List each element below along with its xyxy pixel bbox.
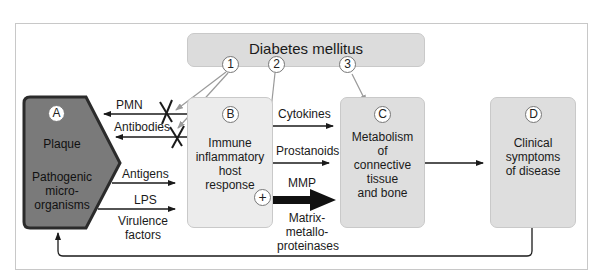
node-c-line: tissue (341, 172, 424, 186)
node-d-line: of disease (491, 164, 575, 178)
marker-2-icon: 2 (268, 56, 285, 73)
node-b-line: host (188, 164, 272, 178)
node-d-line: symptoms (491, 150, 575, 164)
node-a-line: organisms (24, 198, 100, 212)
mmp-line: Matrix- (277, 211, 337, 225)
node-c-line: connective (341, 158, 424, 172)
node-c-box: C Metabolism of connective tissue and bo… (340, 97, 425, 228)
plus-icon: + (254, 189, 271, 206)
node-a-marker-icon: A (48, 105, 65, 122)
cytokines-label: Cytokines (278, 107, 331, 121)
virulence-factors-label: Virulence factors (117, 214, 169, 242)
node-d-box: D Clinical symptoms of disease (490, 97, 576, 228)
virulence-line: factors (117, 228, 169, 242)
mmp-label: MMP (288, 176, 316, 190)
pmn-label: PMN (116, 98, 143, 112)
node-a-line: Pathogenic (24, 170, 100, 184)
node-c-line: Metabolism (341, 130, 424, 144)
node-a-title: Plaque (24, 137, 100, 151)
node-c-marker-icon: C (374, 106, 391, 123)
node-b-marker-icon: B (222, 106, 239, 123)
node-a-subtitle: Pathogenic micro- organisms (24, 170, 100, 212)
node-b-box: B Immune inflammatory host response + (187, 97, 273, 228)
node-a-line: micro- (24, 184, 100, 198)
marker-1-icon: 1 (222, 56, 239, 73)
node-b-line: inflammatory (188, 150, 272, 164)
node-c-line: and bone (341, 186, 424, 200)
node-d-line: Clinical (491, 136, 575, 150)
virulence-line: Virulence (117, 214, 169, 228)
mmp-line: proteinases (277, 239, 337, 253)
lps-label: LPS (134, 193, 157, 207)
node-b-line: Immune (188, 136, 272, 150)
node-d-marker-icon: D (525, 106, 542, 123)
marker-3-icon: 3 (339, 56, 356, 73)
node-c-line: of (341, 144, 424, 158)
mmp-full-label: Matrix- metallo- proteinases (277, 211, 337, 253)
node-b-text: Immune inflammatory host response (188, 136, 272, 192)
antibodies-label: Antibodies (114, 120, 170, 134)
mmp-line: metallo- (277, 225, 337, 239)
prostanoids-label: Prostanoids (276, 144, 339, 158)
node-d-text: Clinical symptoms of disease (491, 136, 575, 178)
mmp-thick-arrow (273, 189, 336, 211)
diabetes-mellitus-label: Diabetes mellitus (249, 40, 363, 57)
node-c-text: Metabolism of connective tissue and bone (341, 130, 424, 200)
antigens-label: Antigens (122, 167, 169, 181)
